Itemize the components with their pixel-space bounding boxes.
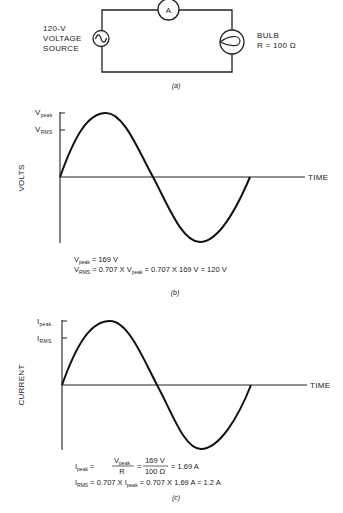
y-axis-label-current: CURRENT	[17, 364, 26, 405]
fraction-numerator: 169 V	[145, 456, 165, 465]
y-axis-label-volts: VOLTS	[17, 164, 26, 191]
x-axis-label-time: TIME	[310, 381, 330, 390]
equation-ipeak: Ipeak = Vpeak R = 169 V 100 Ω = 1.69 A	[75, 456, 199, 476]
source-label-line1: 120-V	[43, 24, 66, 33]
source-label-line3: SOURCE	[43, 44, 79, 53]
tick-label-ipeak: Ipeak	[37, 317, 52, 327]
figure-canvas: A 120-V VOLTAGE SOURCE BULB R = 100 Ω (a…	[0, 0, 343, 513]
source-label-line2: VOLTAGE	[43, 34, 82, 43]
tick-label-vpeak: Vpeak	[35, 108, 53, 118]
equation-vpeak: Vpeak = 169 V	[74, 255, 118, 265]
circuit-diagram: A 120-V VOLTAGE SOURCE BULB R = 100 Ω (a…	[43, 0, 296, 90]
tick-label-irms: IRMS	[37, 334, 52, 344]
svg-text:Ipeak =: Ipeak =	[75, 462, 95, 472]
tick-label-vrms: VRMS	[35, 125, 53, 135]
bulb-label-line2: R = 100 Ω	[257, 41, 296, 50]
svg-text:=: =	[137, 462, 142, 471]
caption-c: (c)	[172, 494, 180, 502]
current-graph: Ipeak IRMS CURRENT TIME Ipeak = Vpeak R …	[17, 317, 330, 502]
fraction-numerator: Vpeak	[114, 456, 130, 466]
caption-a: (a)	[172, 82, 181, 90]
x-axis-label-time: TIME	[308, 173, 328, 182]
voltage-graph: Vpeak VRMS VOLTS TIME Vpeak = 169 V VRMS…	[17, 108, 328, 297]
fraction-denominator: 100 Ω	[145, 467, 166, 476]
circuit-wire	[102, 10, 158, 31]
circuit-wire	[102, 46, 232, 72]
equation-result: = 1.69 A	[171, 462, 199, 471]
fraction-denominator: R	[119, 467, 125, 476]
circuit-wire	[179, 10, 232, 30]
ammeter-icon: A	[158, 0, 179, 20]
ammeter-symbol: A	[166, 6, 172, 15]
bulb-icon	[220, 30, 244, 54]
ac-source-icon	[93, 31, 109, 47]
bulb-label-line1: BULB	[257, 31, 279, 40]
caption-b: (b)	[171, 289, 180, 297]
equation-irms: IRMS = 0.707 X Ipeak = 0.707 X 1.69 A = …	[75, 478, 221, 488]
equation-vrms: VRMS = 0.707 X Vpeak = 0.707 X 169 V = 1…	[74, 265, 227, 275]
